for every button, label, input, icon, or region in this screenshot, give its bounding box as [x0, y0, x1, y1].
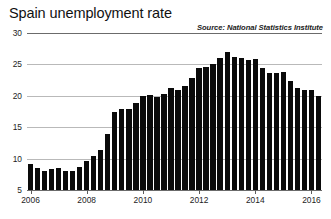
bar	[175, 90, 180, 190]
y-axis-tick-label: 5	[17, 185, 22, 195]
x-axis-tick-label: 2016	[302, 195, 321, 205]
x-axis-tick-label: 2010	[134, 195, 153, 205]
x-axis-tick	[87, 190, 88, 194]
bar	[309, 90, 314, 190]
bar	[182, 86, 187, 190]
bar	[119, 109, 124, 190]
bar	[281, 72, 286, 190]
bar	[302, 90, 307, 190]
bar	[217, 58, 222, 190]
bar	[56, 168, 61, 190]
bar	[295, 88, 300, 190]
bar	[133, 103, 138, 190]
page-title: Spain unemployment rate	[9, 5, 172, 21]
y-axis-tick-label: 30	[13, 28, 22, 38]
bar	[253, 59, 258, 190]
bar	[84, 161, 89, 190]
bar-series	[27, 33, 322, 190]
bar	[203, 67, 208, 190]
x-axis-tick	[199, 190, 200, 194]
plot-area: 51015202530	[27, 33, 322, 190]
bar	[267, 73, 272, 190]
bar	[98, 150, 103, 190]
bar	[91, 156, 96, 190]
bar	[168, 88, 173, 190]
x-axis-tick	[143, 190, 144, 194]
bar	[126, 109, 131, 190]
bar	[225, 52, 230, 190]
bar	[288, 81, 293, 190]
x-axis: 200620082010201220142016	[27, 190, 322, 218]
y-axis-tick-label: 10	[13, 154, 22, 164]
x-axis-tick	[255, 190, 256, 194]
chart-figure: Spain unemployment rate Source: National…	[0, 0, 331, 219]
bar	[154, 97, 159, 190]
y-axis-tick-label: 20	[13, 91, 22, 101]
bar	[189, 78, 194, 190]
source-attribution: Source: National Statistics Institute	[197, 23, 323, 32]
bar	[239, 58, 244, 190]
bar	[232, 57, 237, 190]
bar	[260, 68, 265, 190]
bar	[77, 167, 82, 190]
x-axis-tick	[31, 190, 32, 194]
bar	[49, 169, 54, 190]
x-axis-tick-label: 2006	[21, 195, 40, 205]
bar	[63, 171, 68, 190]
bar	[274, 73, 279, 190]
bar	[140, 96, 145, 190]
bar	[112, 112, 117, 190]
x-axis-tick	[311, 190, 312, 194]
bar	[316, 96, 321, 190]
x-axis-tick-label: 2012	[190, 195, 209, 205]
bar	[196, 68, 201, 190]
bar	[42, 171, 47, 190]
x-axis-tick-label: 2008	[77, 195, 96, 205]
bar	[70, 171, 75, 190]
bar	[147, 95, 152, 190]
y-axis-tick-label: 15	[13, 122, 22, 132]
x-axis-tick-label: 2014	[246, 195, 265, 205]
bar	[28, 164, 33, 190]
bar	[105, 134, 110, 190]
bar	[35, 168, 40, 190]
y-axis-tick-label: 25	[13, 59, 22, 69]
bar	[161, 94, 166, 190]
bar	[210, 64, 215, 190]
bar	[246, 60, 251, 190]
